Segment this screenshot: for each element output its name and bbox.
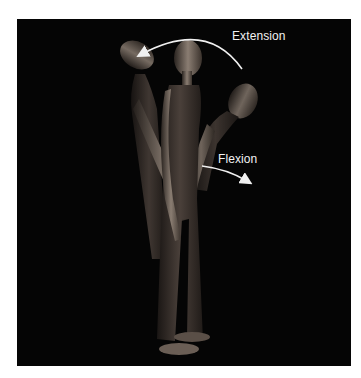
flexion-label: Flexion: [218, 152, 257, 166]
photo-panel: Extension Flexion: [17, 19, 351, 366]
figure-illustration: [17, 19, 351, 366]
pose-neutral: [157, 40, 210, 355]
extension-label: Extension: [232, 29, 286, 43]
